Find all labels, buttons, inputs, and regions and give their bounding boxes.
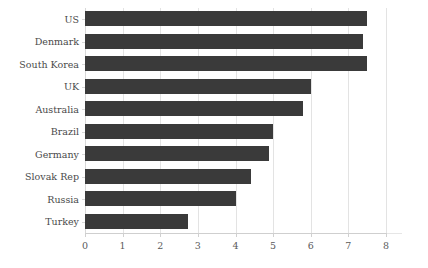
y-tick-mark [82,222,85,223]
x-tick-label-5: 5 [261,240,285,251]
y-axis-label-brazil: Brazil [3,126,79,137]
y-tick-mark [82,132,85,133]
bar-row [85,8,386,30]
bar-germany [85,146,269,161]
y-tick-mark [82,87,85,88]
x-axis-line-extension [386,233,402,234]
y-axis-labels: USDenmarkSouth KoreaUKAustraliaBrazilGer… [0,8,79,233]
x-tick-label-8: 8 [374,240,398,251]
y-tick-mark [82,42,85,43]
x-tick-label-7: 7 [336,240,360,251]
y-axis-label-turkey: Turkey [3,216,79,227]
x-tick-mark-1 [123,233,124,237]
gridline-8 [386,8,387,233]
x-tick-label-0: 0 [73,240,97,251]
y-tick-mark [82,177,85,178]
y-axis-label-us: US [3,14,79,25]
bar-row [85,76,386,98]
bar-row [85,166,386,188]
x-tick-mark-2 [160,233,161,237]
x-tick-label-2: 2 [148,240,172,251]
bar-south-korea [85,56,367,71]
bar-row [85,211,386,233]
bar-row [85,31,386,53]
bar-uk [85,79,311,94]
x-tick-mark-0 [85,233,86,237]
bar-row [85,143,386,165]
x-tick-mark-4 [236,233,237,237]
y-axis-label-australia: Australia [3,104,79,115]
bar-chart: USDenmarkSouth KoreaUKAustraliaBrazilGer… [0,0,428,268]
x-tick-label-1: 1 [111,240,135,251]
plot-area [85,8,386,233]
x-tick-mark-6 [311,233,312,237]
bar-russia [85,191,236,206]
y-tick-mark [82,109,85,110]
x-tick-label-3: 3 [186,240,210,251]
y-axis-label-south-korea: South Korea [3,59,79,70]
bar-us [85,11,367,26]
y-axis-label-uk: UK [3,81,79,92]
bar-row [85,121,386,143]
bar-australia [85,101,303,116]
y-axis-label-denmark: Denmark [3,36,79,47]
y-axis-label-germany: Germany [3,149,79,160]
y-tick-mark [82,64,85,65]
y-tick-mark [82,199,85,200]
bar-slovak-rep [85,169,251,184]
bar-turkey [85,214,188,229]
x-tick-mark-3 [198,233,199,237]
bar-brazil [85,124,273,139]
bar-row [85,53,386,75]
x-tick-mark-5 [273,233,274,237]
x-tick-mark-8 [386,233,387,237]
x-tick-label-6: 6 [299,240,323,251]
bar-row [85,188,386,210]
x-tick-mark-7 [348,233,349,237]
bar-denmark [85,34,363,49]
y-tick-mark [82,19,85,20]
y-tick-mark [82,154,85,155]
y-axis-label-slovak-rep: Slovak Rep [3,171,79,182]
x-tick-label-4: 4 [224,240,248,251]
y-axis-label-russia: Russia [3,194,79,205]
bar-row [85,98,386,120]
